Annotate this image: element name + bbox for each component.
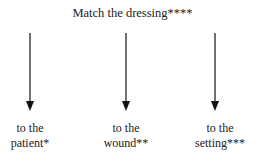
arrow-setting-icon (211, 33, 219, 111)
target-line1: to the (175, 121, 265, 136)
target-setting: to the setting*** (175, 121, 265, 151)
target-line1: to the (81, 121, 171, 136)
target-line2: setting*** (175, 136, 265, 151)
arrow-wound-icon (122, 33, 130, 111)
target-line2: patient* (0, 136, 75, 151)
target-wound: to the wound** (81, 121, 171, 151)
arrow-patient-icon (26, 33, 34, 111)
target-line1: to the (0, 121, 75, 136)
target-line2: wound** (81, 136, 171, 151)
target-patient: to the patient* (0, 121, 75, 151)
